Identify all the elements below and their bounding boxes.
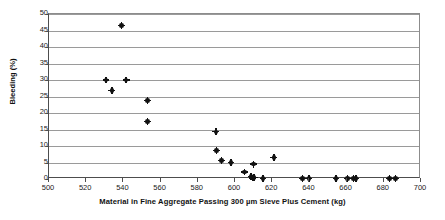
- data-point: [124, 78, 129, 83]
- y-tick-mark: [46, 14, 49, 15]
- y-tick-label: 15: [22, 125, 48, 133]
- y-tick-label: 35: [22, 59, 48, 67]
- gridline-y: [49, 31, 419, 32]
- y-tick-mark: [46, 130, 49, 131]
- x-tick-mark: [346, 178, 347, 182]
- x-tick-mark: [383, 178, 384, 182]
- gridline-y: [49, 130, 419, 131]
- gridline-y: [49, 97, 419, 98]
- x-tick-label: 680: [363, 183, 403, 192]
- data-point: [272, 155, 277, 160]
- x-tick-label: 700: [400, 183, 440, 192]
- x-tick-label: 640: [288, 183, 328, 192]
- scatter-chart: 05101520253035404550 Bleeding (%) Materi…: [0, 0, 445, 220]
- y-tick-label: 45: [22, 26, 48, 34]
- y-tick-mark: [46, 31, 49, 32]
- gridline-y: [49, 47, 419, 48]
- y-tick-mark: [46, 163, 49, 164]
- plot-area: [48, 13, 420, 178]
- x-tick-mark: [160, 178, 161, 182]
- y-tick-label: 30: [22, 75, 48, 83]
- data-point: [214, 130, 219, 135]
- x-tick-mark: [234, 178, 235, 182]
- gridline-y: [49, 14, 419, 15]
- data-point: [104, 78, 109, 83]
- y-tick-mark: [46, 80, 49, 81]
- x-axis-title: Material in Fine Aggregate Passing 300 µ…: [0, 197, 445, 206]
- data-point: [119, 23, 124, 28]
- x-tick-label: 600: [214, 183, 254, 192]
- data-point: [219, 158, 224, 163]
- x-tick-mark: [122, 178, 123, 182]
- x-tick-label: 560: [140, 183, 180, 192]
- x-tick-label: 500: [28, 183, 68, 192]
- y-tick-label: 50: [22, 9, 48, 17]
- data-point: [145, 119, 150, 124]
- y-tick-label: 5: [22, 158, 48, 166]
- y-tick-mark: [46, 47, 49, 48]
- y-tick-label: 40: [22, 42, 48, 50]
- x-axis: 500520540560580600620640660680700: [48, 178, 420, 196]
- x-tick-mark: [308, 178, 309, 182]
- y-tick-mark: [46, 97, 49, 98]
- y-tick-label: 20: [22, 108, 48, 116]
- x-tick-mark: [420, 178, 421, 182]
- y-tick-mark: [46, 64, 49, 65]
- x-tick-mark: [271, 178, 272, 182]
- data-point: [214, 148, 219, 153]
- x-tick-mark: [85, 178, 86, 182]
- x-tick-label: 520: [65, 183, 105, 192]
- y-tick-mark: [46, 146, 49, 147]
- gridline-y: [49, 64, 419, 65]
- x-tick-mark: [48, 178, 49, 182]
- x-tick-label: 660: [326, 183, 366, 192]
- x-tick-mark: [197, 178, 198, 182]
- data-point: [145, 98, 150, 103]
- y-tick-mark: [46, 113, 49, 114]
- y-tick-label: 25: [22, 92, 48, 100]
- gridline-y: [49, 113, 419, 114]
- data-point: [242, 170, 247, 175]
- data-point: [110, 88, 115, 93]
- y-tick-label: 0: [22, 174, 48, 182]
- x-tick-label: 620: [251, 183, 291, 192]
- y-tick-label: 10: [22, 141, 48, 149]
- gridline-y: [49, 146, 419, 147]
- y-axis-title: Bleeding (%): [8, 32, 17, 132]
- x-tick-label: 580: [177, 183, 217, 192]
- data-point: [229, 160, 234, 165]
- data-point: [251, 162, 256, 167]
- x-tick-label: 540: [102, 183, 142, 192]
